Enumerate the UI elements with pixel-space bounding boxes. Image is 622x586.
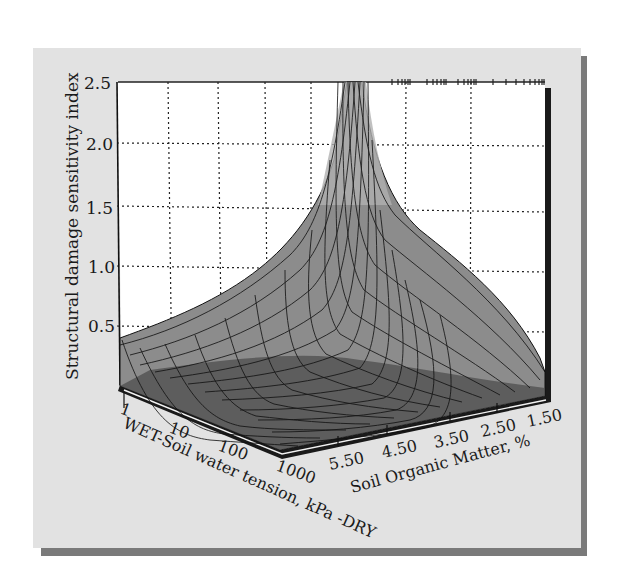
z-tick-label: 0.5 <box>88 316 115 336</box>
y-tick-label: 1.50 <box>525 405 564 431</box>
z-tick-labels: 2.5 2.0 1.5 1.0 0.5 <box>84 73 115 336</box>
panel-shadow <box>545 88 551 402</box>
z-tick-label: 2.5 <box>84 73 111 93</box>
surface-chart: 2.5 2.0 1.5 1.0 0.5 Structural damage se… <box>0 0 622 586</box>
z-tick-label: 2.0 <box>86 134 113 154</box>
z-axis-title: Structural damage sensitivity index <box>62 72 82 380</box>
y-tick-label: 4.50 <box>380 436 419 462</box>
z-tick-label: 1.5 <box>86 198 113 218</box>
y-tick-label: 5.50 <box>327 448 366 474</box>
z-tick-label: 1.0 <box>88 257 115 277</box>
